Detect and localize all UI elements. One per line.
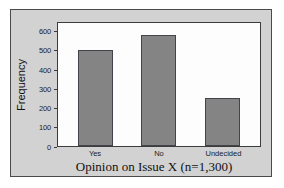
chart-figure: Frequency 0100200300400500600 YesNoUndec… [10,9,272,177]
y-axis-tick-label: 200 [39,104,54,113]
bar [78,50,113,146]
x-axis-tick-label: No [142,149,177,158]
x-axis-tick-labels: YesNoUndecided [57,149,261,158]
y-axis-tick-label: 300 [39,85,54,94]
y-axis-tick-label: 100 [39,123,54,132]
y-axis-tick-label: 400 [39,66,54,75]
bar [141,35,176,146]
x-axis-tick-label: Undecided [206,149,241,158]
y-axis: 0100200300400500600 [11,22,57,148]
x-axis-tick-label: Yes [78,149,113,158]
x-axis-title: Opinion on Issue X (n=1,300) [41,159,267,175]
y-axis-tick-label: 500 [39,46,54,55]
plot-area [57,22,261,147]
bar [205,98,240,146]
y-axis-tick-label: 0 [47,143,54,152]
y-axis-tick-label: 600 [39,27,54,36]
bar-series [58,23,260,146]
